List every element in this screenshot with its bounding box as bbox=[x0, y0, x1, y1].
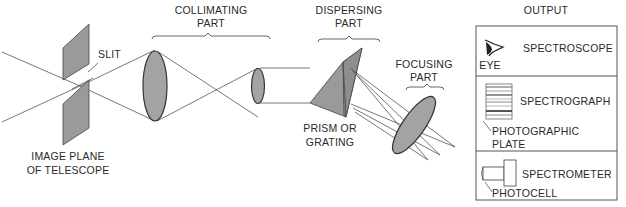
collimating-lens-2 bbox=[252, 69, 265, 104]
prism-label-1: PRISM OR bbox=[303, 122, 357, 134]
image-plane-label-1: IMAGE PLANE bbox=[31, 150, 104, 162]
slit-label: SLIT bbox=[98, 48, 121, 60]
dispersing-label-2: PART bbox=[335, 17, 363, 29]
photographic-plate-label-1: PHOTOGRAPHIC bbox=[492, 125, 580, 137]
upper-slit-plate bbox=[63, 24, 89, 80]
collimating-lens-1 bbox=[143, 51, 167, 121]
photographic-plate-label-2: PLATE bbox=[492, 138, 525, 150]
spectrograph-label: SPECTROGRAPH bbox=[520, 95, 611, 107]
prism-label-2: GRATING bbox=[306, 136, 354, 148]
slit-leader bbox=[88, 63, 98, 72]
lower-slit-plate bbox=[63, 80, 89, 145]
spectroscope-label: SPECTROSCOPE bbox=[523, 42, 613, 54]
spectrometer-label: SPECTROMETER bbox=[522, 168, 612, 180]
focusing-brace bbox=[406, 84, 444, 90]
photocell-label: PHOTOCELL bbox=[492, 187, 557, 199]
collimating-brace bbox=[152, 33, 270, 39]
eye-label: EYE bbox=[479, 59, 501, 71]
collimating-label-1: COLLIMATING bbox=[175, 4, 248, 16]
dispersing-brace bbox=[318, 36, 380, 42]
focusing-label-1: FOCUSING bbox=[395, 58, 452, 70]
focusing-label-2: PART bbox=[410, 71, 438, 83]
collimating-rays bbox=[157, 51, 310, 121]
spectrograph-diagram: SLIT IMAGE PLANE OF TELESCOPE COLLIMATIN… bbox=[0, 0, 626, 207]
dispersing-label-1: DISPERSING bbox=[316, 4, 383, 16]
prism bbox=[310, 48, 362, 117]
output-label: OUTPUT bbox=[524, 4, 569, 16]
image-plane-label-2: OF TELESCOPE bbox=[27, 164, 110, 176]
photographic-plate-icon bbox=[486, 84, 512, 119]
collimating-label-2: PART bbox=[197, 17, 225, 29]
